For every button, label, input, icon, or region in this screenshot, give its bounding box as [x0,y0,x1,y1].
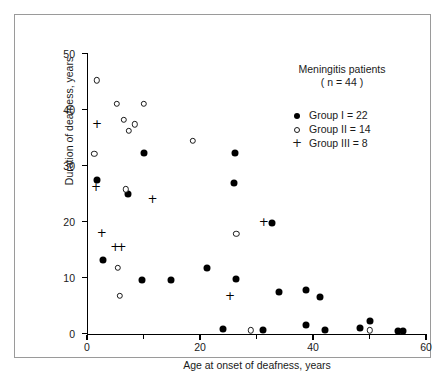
data-point-series-1 [140,150,147,157]
data-point-series-1 [316,293,323,300]
legend-entry-label: Group II = 14 [309,123,371,135]
x-tick-label: 20 [180,342,220,352]
plus-icon: + [290,137,304,149]
y-tick [82,221,87,222]
x-minor-tick [369,335,370,339]
x-tick [312,335,313,340]
data-point-series-1 [231,179,238,186]
data-point-series-1 [260,327,267,334]
data-point-series-1 [356,325,363,332]
y-tick-label: 10 [35,273,75,283]
data-point-series-1 [302,287,309,294]
open-circle-icon [290,123,304,135]
y-tick [82,109,87,110]
chart-legend: Meningitis patients ( n = 44 ) Group I =… [267,63,437,150]
data-point-series-1 [167,276,174,283]
data-point-series-1 [322,327,329,334]
data-point-series-1 [276,288,283,295]
x-minor-tick [256,335,257,339]
data-point-series-1 [367,317,374,324]
data-point-series-1 [400,327,407,334]
data-point-series-1 [139,276,146,283]
y-tick [82,277,87,278]
data-point-series-3 [116,242,125,251]
legend-entry: Group II = 14 [290,122,437,136]
x-tick [199,335,200,340]
x-tick-label: 60 [406,342,446,352]
data-point-series-1 [99,257,106,264]
legend-entry: Group I = 22 [290,108,437,122]
legend-entry: +Group III = 8 [290,136,437,150]
y-tick-label: 0 [35,329,75,339]
filled-circle-icon [290,109,304,121]
y-tick [82,53,87,54]
legend-subtitle: ( n = 44 ) [267,76,417,89]
data-point-series-1 [220,326,227,333]
x-minor-tick [143,335,144,339]
data-point-series-3 [92,120,101,129]
x-tick-label: 40 [293,342,333,352]
data-point-series-3 [97,228,106,237]
data-point-series-3 [147,195,156,204]
data-point-series-1 [269,219,276,226]
legend-entry-label: Group III = 8 [309,137,368,149]
data-point-series-3 [259,218,268,227]
legend-entry-label: Group I = 22 [309,109,368,121]
x-axis-title: Age at onset of deafness, years [88,359,426,371]
figure-container: 01020304050 0204060 Duration of deafness… [0,0,447,382]
legend-entries: Group I = 22Group II = 14+Group III = 8 [290,108,437,150]
y-axis-title: Duration of deafness, years [63,21,75,221]
data-point-series-3 [91,182,100,191]
x-tick [86,335,87,340]
x-tick-label: 0 [67,342,107,352]
data-point-series-1 [232,150,239,157]
figure-frame: 01020304050 0204060 Duration of deafness… [14,14,431,358]
data-point-series-1 [303,322,310,329]
legend-title: Meningitis patients [267,63,417,76]
data-point-series-1 [232,276,239,283]
data-point-series-3 [225,291,234,300]
data-point-series-1 [203,265,210,272]
y-tick [82,165,87,166]
x-tick [425,335,426,340]
